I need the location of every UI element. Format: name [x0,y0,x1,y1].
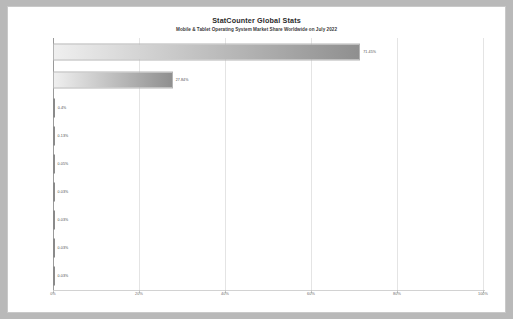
bar-value-label: 0.03% [55,190,69,194]
x-axis-tick-label: 60% [307,292,315,296]
x-axis-tick-label: 40% [221,292,229,296]
chart-card: StatCounter Global Stats Mobile & Tablet… [7,6,506,313]
page-title: StatCounter Global Stats [8,16,505,25]
chart-bar-row: 0.03%Windows [53,178,483,206]
chart-subtitle: Mobile & Tablet Operating System Market … [8,26,505,33]
bar-value-label: 0.4% [55,106,67,110]
gridline [483,38,484,290]
bar-value-label: 0.13% [55,134,69,138]
chart-bar-row: 0.05%KaiOS [53,150,483,178]
chart-bar-row: 27.84%iOS [53,66,483,94]
chart-bar-row: 0.03%Other [53,262,483,290]
x-axis-tick-label: 0% [50,292,56,296]
x-axis-tick-label: 100% [478,292,488,296]
x-axis-tick-label: 80% [393,292,401,296]
plot-area: 71.45%Android27.84%iOS0.4%Samsung0.13%Un… [53,38,484,290]
x-axis-tick-label: 20% [135,292,143,296]
chart-bar-row: 71.45%Android [53,38,483,66]
bar-android[interactable] [53,44,360,61]
chart-bar-row: 0.4%Samsung [53,94,483,122]
bar-value-label: 0.05% [55,162,69,166]
chart-bar-row: 0.03%Series 40 [53,234,483,262]
chart-bar-row: 0.13%Unknown [53,122,483,150]
x-axis-line [53,290,485,291]
bar-ios[interactable] [53,72,173,89]
bar-value-label: 0.03% [55,218,69,222]
bar-value-label: 0.03% [55,274,69,278]
bar-value-label: 27.84% [173,78,189,82]
bar-value-label: 71.45% [360,50,376,54]
title-block: StatCounter Global Stats Mobile & Tablet… [8,16,505,33]
chart-bar-row: 0.03%Nokia Unknown [53,206,483,234]
bar-value-label: 0.03% [55,246,69,250]
